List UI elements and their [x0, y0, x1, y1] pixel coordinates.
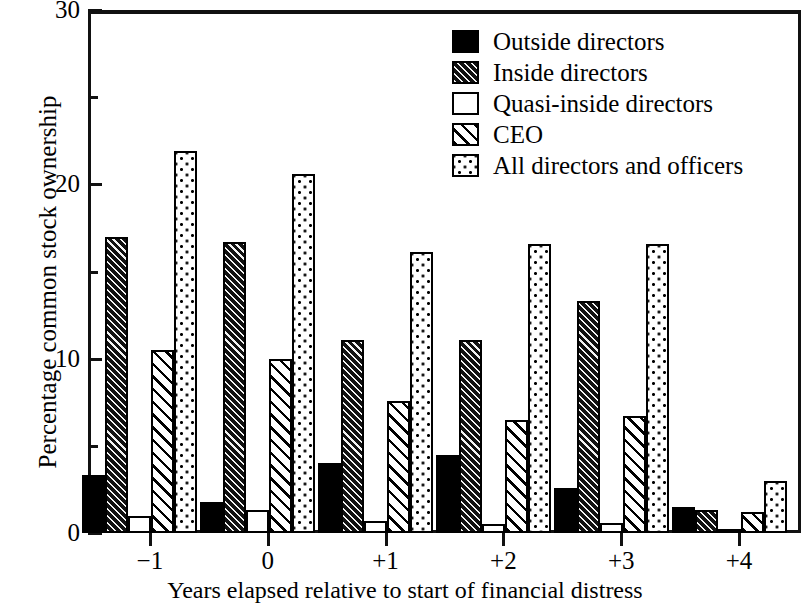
legend-item: Quasi-inside directors — [452, 88, 792, 119]
bar — [174, 151, 197, 533]
bar-group — [200, 13, 315, 533]
bar — [128, 516, 151, 533]
legend-swatch-icon — [452, 61, 479, 84]
x-axis-tick — [502, 533, 505, 546]
legend-label: All directors and officers — [493, 153, 743, 178]
bar — [318, 463, 341, 533]
x-axis-title: Years elapsed relative to start of finan… — [0, 578, 810, 602]
chart-legend: Outside directorsInside directorsQuasi-i… — [452, 26, 792, 181]
bar — [741, 512, 764, 533]
bar — [410, 252, 433, 533]
bar-group — [318, 13, 433, 533]
bar — [672, 507, 695, 533]
bar — [82, 475, 105, 533]
bar-group — [82, 13, 197, 533]
legend-label: CEO — [493, 122, 543, 147]
y-axis-tick-label: 10 — [20, 346, 80, 371]
bar — [436, 455, 459, 533]
bar — [695, 510, 718, 533]
y-axis-tick-label: 30 — [20, 0, 80, 22]
x-axis-tick-label: −1 — [110, 548, 190, 573]
bar — [623, 416, 646, 533]
bar — [341, 340, 364, 534]
x-axis-tick — [620, 533, 623, 546]
bar — [200, 502, 223, 533]
bar — [459, 340, 482, 534]
bar — [554, 488, 577, 533]
x-axis-tick-label: +2 — [463, 548, 543, 573]
legend-item: All directors and officers — [452, 150, 792, 181]
bar — [646, 244, 669, 533]
x-axis-tick — [267, 533, 270, 546]
legend-swatch-icon — [452, 123, 479, 146]
bar-chart-figure: Percentage common stock ownership 010203… — [0, 0, 810, 607]
x-axis-tick — [738, 533, 741, 546]
legend-label: Outside directors — [493, 29, 664, 54]
x-axis-tick-label: +3 — [581, 548, 661, 573]
legend-swatch-icon — [452, 154, 479, 177]
bar — [292, 174, 315, 533]
y-axis-tick-labels: 0102030 — [10, 0, 80, 607]
bar — [718, 529, 741, 533]
x-axis-tick-label: +4 — [699, 548, 779, 573]
legend-item: Inside directors — [452, 57, 792, 88]
legend-label: Quasi-inside directors — [493, 91, 713, 116]
bar — [482, 524, 505, 533]
bar — [151, 350, 174, 533]
legend-item: Outside directors — [452, 26, 792, 57]
bar — [600, 523, 623, 533]
bar — [269, 359, 292, 533]
legend-swatch-icon — [452, 92, 479, 115]
bar — [364, 521, 387, 533]
x-axis-tick-label: 0 — [228, 548, 308, 573]
bar — [246, 510, 269, 533]
y-axis-tick-label: 0 — [20, 520, 80, 545]
y-axis-major-tick — [88, 9, 102, 12]
x-axis-tick-label: +1 — [346, 548, 426, 573]
bar — [505, 420, 528, 533]
y-axis-tick-label: 20 — [20, 171, 80, 196]
bar — [387, 401, 410, 533]
bar — [105, 237, 128, 533]
legend-swatch-icon — [452, 30, 479, 53]
legend-item: CEO — [452, 119, 792, 150]
x-axis-tick — [149, 533, 152, 546]
bar — [223, 242, 246, 533]
bar — [577, 301, 600, 533]
bar — [528, 244, 551, 533]
bar — [764, 481, 787, 533]
legend-label: Inside directors — [493, 60, 648, 85]
x-axis-tick — [385, 533, 388, 546]
